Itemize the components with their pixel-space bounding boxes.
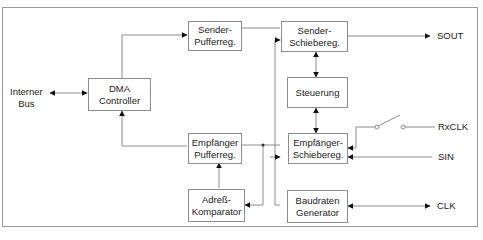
label-line: Interner [10, 86, 43, 98]
block-empfaenger-schiebe: Empfänger- Schiebereg. [288, 133, 348, 164]
block-label: Pufferreg. [194, 149, 236, 161]
block-label: Adreß- [202, 194, 231, 206]
block-label: DMA [109, 83, 130, 95]
block-steuerung: Steuerung [287, 77, 348, 108]
block-empfaenger-puffer: Empfänger Pufferreg. [188, 133, 242, 164]
block-label: Pufferreg. [194, 36, 236, 48]
block-label: Schiebereg. [289, 37, 340, 49]
block-label: Schiebereg. [293, 149, 344, 161]
sout-label: SOUT [437, 30, 463, 42]
block-label: Sender- [298, 25, 332, 37]
block-label: Komparator [192, 206, 242, 218]
block-label: Sender- [198, 24, 232, 36]
block-label: Steuerung [296, 87, 340, 99]
block-label: Empfänger- [293, 137, 343, 149]
block-adress-komparator: Adreß- Komparator [188, 189, 245, 222]
block-baudraten-generator: Baudraten Generator [287, 190, 348, 223]
block-sender-puffer: Sender- Pufferreg. [188, 21, 242, 51]
block-label: Generator [296, 207, 339, 219]
block-label: Controller [99, 95, 140, 107]
block-label: Empfänger [192, 137, 238, 149]
rxclk-label: RxCLK [438, 121, 468, 133]
block-dma-controller: DMA Controller [88, 78, 151, 111]
label-line: Bus [10, 98, 43, 110]
block-label: Baudraten [296, 195, 340, 207]
sin-label: SIN [438, 151, 454, 163]
internal-bus-label: Interner Bus [10, 86, 43, 110]
block-sender-schiebe: Sender- Schiebereg. [281, 21, 348, 52]
clk-label: CLK [437, 200, 455, 212]
